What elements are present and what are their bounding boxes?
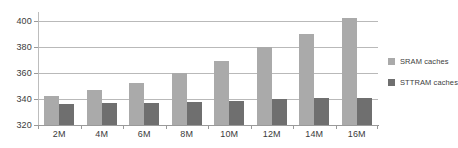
y-axis-tick-label: 360 bbox=[0, 69, 32, 78]
bar-sram bbox=[87, 90, 102, 125]
x-axis-tick-label: 2M bbox=[38, 129, 81, 139]
bar-sram bbox=[129, 83, 144, 125]
bar-sttram bbox=[314, 98, 329, 125]
bar-pair bbox=[81, 14, 124, 125]
bar-sram bbox=[299, 34, 314, 125]
y-axis-tick-label: 400 bbox=[0, 17, 32, 26]
legend-label-sttram: STTRAM caches bbox=[400, 78, 458, 87]
bar-pair bbox=[38, 14, 81, 125]
bar-group bbox=[251, 14, 294, 125]
legend-item-sttram: STTRAM caches bbox=[388, 78, 454, 87]
y-axis-tick-label: 320 bbox=[0, 121, 32, 130]
bar-sttram bbox=[144, 103, 159, 125]
bar-sttram bbox=[187, 102, 202, 125]
bar-sram bbox=[172, 73, 187, 125]
bar-group bbox=[336, 14, 379, 125]
bar-group bbox=[166, 14, 209, 125]
bar-pair bbox=[251, 14, 294, 125]
bar-group bbox=[293, 14, 336, 125]
bar-pair bbox=[336, 14, 379, 125]
bar-group bbox=[208, 14, 251, 125]
legend-label-sram: SRAM caches bbox=[400, 57, 449, 66]
x-axis-tick-label: 8M bbox=[166, 129, 209, 139]
x-axis-tick-label: 10M bbox=[208, 129, 251, 139]
bar-group bbox=[81, 14, 124, 125]
x-axis-tick-label: 4M bbox=[81, 129, 124, 139]
bar-pair bbox=[166, 14, 209, 125]
legend-swatch-sram-icon bbox=[388, 58, 395, 65]
y-axis-tick-label: 340 bbox=[0, 95, 32, 104]
plot-area bbox=[38, 14, 378, 125]
bar-sram bbox=[257, 47, 272, 125]
x-axis-tick-label: 12M bbox=[251, 129, 294, 139]
bar-sttram bbox=[102, 103, 117, 125]
bar-sram bbox=[44, 96, 59, 125]
bar-groups bbox=[38, 14, 378, 125]
bar-sram bbox=[214, 61, 229, 125]
bar-pair bbox=[293, 14, 336, 125]
x-axis-tick-label: 6M bbox=[123, 129, 166, 139]
chart-legend: SRAM caches STTRAM caches bbox=[388, 57, 454, 99]
bar-sttram bbox=[272, 99, 287, 125]
bar-group bbox=[38, 14, 81, 125]
bar-sttram bbox=[357, 98, 372, 125]
bar-sram bbox=[342, 18, 357, 125]
bar-sttram bbox=[229, 101, 244, 125]
x-axis-tick-label: 14M bbox=[293, 129, 336, 139]
bar-group bbox=[123, 14, 166, 125]
legend-item-sram: SRAM caches bbox=[388, 57, 454, 66]
bar-sttram bbox=[59, 104, 74, 125]
y-axis-tick-label: 380 bbox=[0, 43, 32, 52]
bar-pair bbox=[123, 14, 166, 125]
legend-swatch-sttram-icon bbox=[388, 79, 395, 86]
bar-pair bbox=[208, 14, 251, 125]
x-axis-tick-label: 16M bbox=[336, 129, 379, 139]
